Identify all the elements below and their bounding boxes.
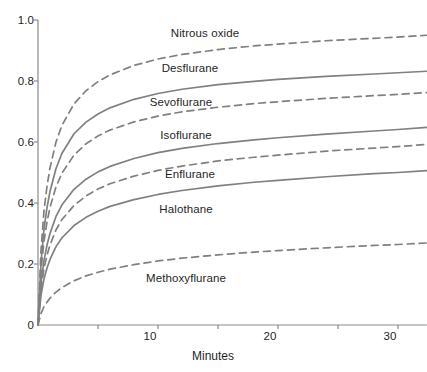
curve-halothane <box>38 171 427 325</box>
series-label-desflurane: Desflurane <box>162 62 219 74</box>
ytick-label-0_6: 0.6 <box>18 136 34 148</box>
curve-nitrous-oxide <box>38 35 427 325</box>
anesthetic-uptake-chart: 1.0 0.8 0.6 0.4 0.2 0 10 20 30 Minutes N… <box>0 0 427 372</box>
plot-area <box>0 0 427 372</box>
curve-isoflurane <box>38 127 427 325</box>
series-label-enflurane: Enflurane <box>165 168 215 180</box>
series-label-halothane: Halothane <box>159 203 212 215</box>
series-label-methoxyflurane: Methoxyflurane <box>146 272 226 284</box>
ytick-label-1_0: 1.0 <box>18 14 34 26</box>
xaxis-title: Minutes <box>163 349 263 363</box>
curve-desflurane <box>38 71 427 325</box>
xtick-label-30: 30 <box>378 330 402 342</box>
curve-enflurane <box>38 144 427 325</box>
xtick-label-10: 10 <box>138 330 162 342</box>
series-label-nitrous-oxide: Nitrous oxide <box>171 27 239 39</box>
ytick-label-0_2: 0.2 <box>18 258 34 270</box>
curve-methoxyflurane <box>38 243 427 325</box>
series-label-sevoflurane: Sevoflurane <box>150 96 212 108</box>
ytick-label-0_4: 0.4 <box>18 197 34 209</box>
curve-series <box>38 35 427 325</box>
series-label-isoflurane: Isoflurane <box>160 129 212 141</box>
ytick-label-0_8: 0.8 <box>18 75 34 87</box>
ytick-label-0: 0 <box>28 319 35 331</box>
xtick-label-20: 20 <box>258 330 282 342</box>
curve-sevoflurane <box>38 93 427 325</box>
